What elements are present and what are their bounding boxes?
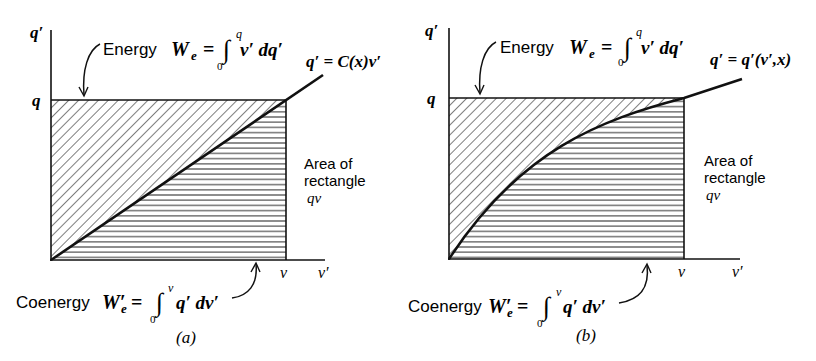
curve-label-a: q′ = C(x)v′ bbox=[306, 52, 381, 71]
energy-word-a: Energy bbox=[103, 40, 157, 59]
q-tick-b: q bbox=[427, 89, 436, 108]
energy-sub-a: e bbox=[191, 48, 197, 63]
area-label-b-1: Area of bbox=[704, 152, 753, 169]
q-tick-a: q bbox=[32, 91, 41, 110]
x-axis-label-b: v′ bbox=[732, 263, 743, 280]
y-axis-label-a: q′ bbox=[30, 23, 43, 42]
coenergy-arrowhead-b bbox=[642, 264, 651, 273]
v-tick-b: v bbox=[678, 263, 686, 280]
x-axis-label-a: v′ bbox=[318, 264, 329, 281]
energy-eq-b: = bbox=[601, 36, 612, 58]
energy-integral-a: ∫ bbox=[221, 35, 232, 65]
panel-a: q′ q v v′ Energy W e = ∫ 0 q v′ dq′ q′ =… bbox=[16, 23, 381, 347]
coenergy-word-a: Coenergy bbox=[16, 293, 90, 312]
curve-label-b: q′ = q′(v′,x) bbox=[710, 50, 791, 69]
coenergy-eq-b: = bbox=[517, 295, 528, 317]
coenergy-word-b: Coenergy bbox=[408, 297, 482, 316]
energy-coenergy-figure: q′ q v v′ Energy W e = ∫ 0 q v′ dq′ q′ =… bbox=[0, 0, 816, 361]
coenergy-upper-b: v bbox=[556, 285, 562, 299]
energy-arrow-b bbox=[480, 42, 496, 93]
energy-eq-a: = bbox=[203, 38, 214, 60]
energy-arrow-a bbox=[84, 44, 100, 95]
energy-integrand-a: v′ dq′ bbox=[240, 39, 283, 60]
coenergy-sub-b: e bbox=[507, 305, 513, 320]
caption-b: (b) bbox=[576, 326, 596, 345]
v-tick-a: v bbox=[280, 264, 288, 281]
coenergy-upper-a: v bbox=[168, 281, 174, 295]
coenergy-integral-a: ∫ bbox=[154, 288, 165, 318]
coenergy-integral-b: ∫ bbox=[541, 292, 552, 322]
energy-word-b: Energy bbox=[500, 38, 554, 57]
area-label-a-1: Area of bbox=[304, 155, 353, 172]
panel-b: q′ q v v′ Energy W e = 0 ∫ q v′ dq′ q′ =… bbox=[408, 21, 791, 345]
caption-a: (a) bbox=[176, 328, 196, 347]
energy-lower-a: 0 bbox=[217, 60, 223, 72]
energy-symbol-b: W bbox=[569, 36, 588, 58]
coenergy-sub-a: e bbox=[121, 301, 127, 316]
coenergy-integrand-b: q′ dv′ bbox=[563, 296, 606, 317]
coenergy-integrand-a: q′ dv′ bbox=[176, 292, 219, 313]
area-label-a-2: rectangle bbox=[304, 172, 366, 189]
energy-symbol-a: W bbox=[171, 38, 190, 60]
energy-sub-b: e bbox=[589, 46, 595, 61]
area-label-b-3: qv bbox=[706, 187, 721, 203]
energy-integral-b: ∫ bbox=[622, 33, 633, 63]
energy-integrand-b: v′ dq′ bbox=[641, 37, 684, 58]
y-axis-label-b: q′ bbox=[425, 21, 438, 40]
area-label-b-2: rectangle bbox=[704, 169, 766, 186]
coenergy-eq-a: = bbox=[131, 291, 142, 313]
area-label-a-3: qv bbox=[307, 190, 322, 206]
